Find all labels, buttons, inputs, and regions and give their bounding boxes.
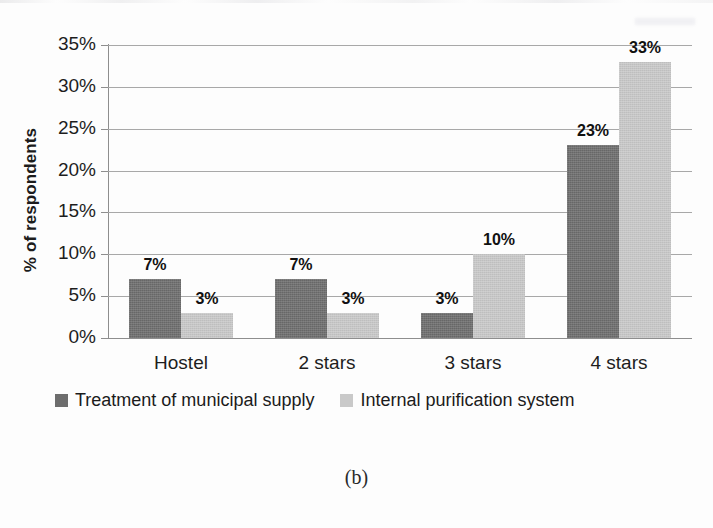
y-tick-mark — [101, 129, 108, 130]
bar-3-stars-series1 — [421, 313, 473, 338]
y-tick-mark — [101, 45, 108, 46]
bar-texture — [421, 313, 473, 338]
bar-2-stars-series1 — [275, 279, 327, 338]
bar-3-stars-series2 — [473, 254, 525, 338]
bar-4-stars-series2 — [619, 62, 671, 338]
x-axis-label-3-stars: 3 stars — [400, 352, 546, 374]
legend-label: Internal purification system — [360, 390, 574, 411]
y-tick-mark — [101, 296, 108, 297]
data-label-3-stars-series2: 10% — [463, 231, 535, 249]
y-axis-tick-labels: 0%5%10%15%20%25%30%35% — [30, 0, 96, 528]
y-tick-mark — [101, 212, 108, 213]
bar-hostel-series1 — [129, 279, 181, 338]
data-label-4-stars-series2: 33% — [609, 39, 681, 57]
data-label-hostel-series1: 7% — [119, 256, 191, 274]
light-square-swatch-icon — [340, 394, 353, 407]
bar-chart-figure: % of respondents 0%5%10%15%20%25%30%35% … — [0, 0, 713, 528]
gridline-30 — [108, 87, 692, 88]
data-label-hostel-series2: 3% — [171, 290, 243, 308]
y-axis-tick-label: 0% — [36, 326, 96, 348]
y-axis-tick-label: 20% — [36, 159, 96, 181]
legend-entry-2: Internal purification system — [340, 390, 574, 411]
bar-texture — [567, 145, 619, 338]
y-axis-tick-label: 35% — [36, 33, 96, 55]
y-tick-mark — [101, 87, 108, 88]
y-axis-tick-label: 15% — [36, 200, 96, 222]
y-axis-tick-label: 10% — [36, 242, 96, 264]
bar-texture — [181, 313, 233, 338]
figure-caption: (b) — [0, 466, 713, 489]
bar-texture — [275, 279, 327, 338]
y-tick-mark — [101, 338, 108, 339]
bar-texture — [473, 254, 525, 338]
x-axis-label-hostel: Hostel — [108, 352, 254, 374]
data-label-2-stars-series2: 3% — [317, 290, 389, 308]
data-label-2-stars-series1: 7% — [265, 256, 337, 274]
x-axis-label-2-stars: 2 stars — [254, 352, 400, 374]
bar-texture — [619, 62, 671, 338]
x-axis-label-4-stars: 4 stars — [546, 352, 692, 374]
legend-entry-1: Treatment of municipal supply — [55, 390, 314, 411]
bar-4-stars-series1 — [567, 145, 619, 338]
y-tick-mark — [101, 254, 108, 255]
y-axis-tick-label: 25% — [36, 117, 96, 139]
y-axis-tick-label: 5% — [36, 284, 96, 306]
plot-area: 7%3%7%3%3%10%23%33% — [108, 45, 692, 338]
legend-label: Treatment of municipal supply — [75, 390, 314, 411]
bar-hostel-series2 — [181, 313, 233, 338]
dark-square-swatch-icon — [55, 394, 68, 407]
y-tick-mark — [101, 171, 108, 172]
chart-legend: Treatment of municipal supplyInternal pu… — [55, 390, 575, 411]
gridline-0 — [108, 338, 692, 339]
bar-texture — [327, 313, 379, 338]
y-axis-tick-label: 30% — [36, 75, 96, 97]
gridline-35 — [108, 45, 692, 46]
bar-2-stars-series2 — [327, 313, 379, 338]
bar-texture — [129, 279, 181, 338]
